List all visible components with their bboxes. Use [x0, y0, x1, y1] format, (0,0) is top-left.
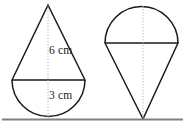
right-composite-solid	[105, 6, 178, 119]
left-cone-slant-right	[48, 5, 85, 80]
right-cone-slant-left	[105, 43, 143, 119]
geometry-diagram	[0, 0, 185, 128]
right-hemisphere-arc	[105, 7, 178, 44]
left-cone-slant-left	[12, 5, 48, 80]
height-dimension-label: 6 cm	[49, 45, 72, 57]
geometry-figure: 6 cm 3 cm	[0, 0, 185, 128]
right-cone-slant-right	[143, 43, 178, 119]
radius-dimension-label: 3 cm	[49, 90, 72, 102]
